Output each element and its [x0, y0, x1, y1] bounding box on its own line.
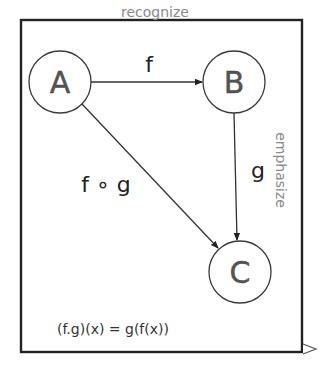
node-a: A	[29, 51, 91, 113]
node-c: C	[209, 241, 271, 303]
composition-formula: (f.g)(x) = g(f(x))	[57, 321, 169, 337]
node-a-label: A	[50, 65, 71, 100]
node-b-label: B	[224, 65, 245, 100]
edge-label-f: f	[145, 52, 154, 77]
edge-label-f-compose-g: f ∘ g	[81, 172, 130, 197]
annotation-recognize: recognize	[121, 4, 189, 20]
edge-label-g: g	[251, 158, 265, 183]
annotation-emphasize: emphasize	[273, 132, 289, 208]
commutative-diagram: recognize emphasize f g f ∘ g A B C (f.g…	[0, 0, 329, 369]
edge-b-to-c	[234, 113, 237, 240]
corner-arrow-icon	[303, 344, 316, 354]
node-b: B	[203, 51, 265, 113]
node-c-label: C	[230, 255, 251, 290]
